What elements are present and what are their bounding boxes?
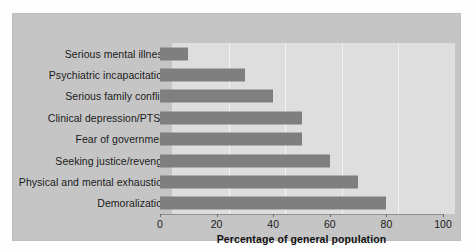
bar[interactable]	[160, 154, 330, 167]
bar[interactable]	[160, 197, 386, 210]
bar-row: Physical and mental exhaustion	[12, 171, 461, 192]
x-tick-label: 40	[267, 218, 279, 230]
bar-row: Psychiatric incapacitation	[12, 64, 461, 85]
x-tick-mark	[160, 214, 161, 217]
bar-row: Demoralization	[12, 193, 461, 214]
bar[interactable]	[160, 47, 188, 60]
bar[interactable]	[160, 69, 245, 82]
bar[interactable]	[160, 111, 302, 124]
bar[interactable]	[160, 90, 273, 103]
x-tick-label: 0	[157, 218, 163, 230]
bar-rows: Serious mental illness Psychiatric incap…	[12, 43, 461, 214]
chart-panel: Serious mental illness Psychiatric incap…	[12, 13, 461, 241]
bar-row: Fear of government	[12, 129, 461, 150]
x-axis-line	[160, 214, 443, 215]
x-tick-label: 60	[324, 218, 336, 230]
category-label: Fear of government	[75, 133, 168, 145]
x-tick-label: 20	[211, 218, 223, 230]
category-label: Serious family conflict	[65, 90, 168, 102]
x-tick-mark	[330, 214, 331, 217]
category-label: Clinical depression/PTSD	[48, 112, 168, 124]
bar-row: Serious family conflict	[12, 86, 461, 107]
category-label: Seeking justice/revenge	[55, 155, 168, 167]
category-label: Serious mental illness	[65, 48, 168, 60]
bar-row: Seeking justice/revenge	[12, 150, 461, 171]
category-label: Psychiatric incapacitation	[49, 69, 168, 81]
chart-figure: Serious mental illness Psychiatric incap…	[0, 0, 476, 252]
bar-row: Serious mental illness	[12, 43, 461, 64]
x-tick-label: 80	[381, 218, 393, 230]
bar-row: Clinical depression/PTSD	[12, 107, 461, 128]
category-label: Physical and mental exhaustion	[19, 176, 168, 188]
bar[interactable]	[160, 175, 358, 188]
x-tick-mark	[443, 214, 444, 217]
category-label: Demoralization	[97, 197, 168, 209]
bar[interactable]	[160, 133, 302, 146]
x-tick-mark	[273, 214, 274, 217]
x-axis-title: Percentage of general population	[160, 233, 443, 245]
x-tick-label: 100	[434, 218, 452, 230]
x-tick-mark	[217, 214, 218, 217]
x-tick-mark	[386, 214, 387, 217]
